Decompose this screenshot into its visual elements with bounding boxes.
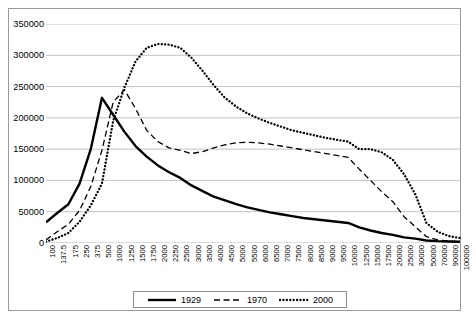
x-axis-tick-label: 250 <box>83 245 91 258</box>
x-axis-tick-label: 3000 <box>195 245 203 262</box>
x-axis-tick-label: 5500 <box>251 245 259 262</box>
x-axis-tick-label: 17500 <box>385 245 393 266</box>
x-axis-tick-label: 1500 <box>139 245 147 262</box>
legend-entry-2000: 2000 <box>279 295 333 305</box>
x-axis-tick-label: 4500 <box>228 245 236 262</box>
y-axis-tick-label: 150000 <box>0 145 44 154</box>
x-axis-tick-label: 9000 <box>329 245 337 262</box>
x-axis-tick-label: 100000 <box>463 245 471 270</box>
plot-svg <box>46 24 461 243</box>
x-axis-tick-label: 100 <box>49 245 57 258</box>
x-axis-tick-label: 500 <box>105 245 113 258</box>
x-axis-tick-label: 1000 <box>116 245 124 262</box>
x-axis-tick-label: 2000 <box>161 245 169 262</box>
legend-entry-1970: 1970 <box>213 295 267 305</box>
x-axis-tick-label: 9500 <box>340 245 348 262</box>
x-axis-tick-label: 7000 <box>284 245 292 262</box>
x-axis-tick-label: 6000 <box>262 245 270 262</box>
x-axis-tick-label: 20000 <box>396 245 404 266</box>
x-axis-tick-label: 30000 <box>418 245 426 266</box>
x-axis-tick-label: 1750 <box>150 245 158 262</box>
chart-container: 0500001000001500002000002500003000003500… <box>0 0 476 319</box>
y-axis-tick-label: 200000 <box>0 113 44 122</box>
x-axis-tick-label: 2500 <box>183 245 191 262</box>
x-axis-tick-label: 1250 <box>128 245 136 262</box>
x-axis-tick-label: 175 <box>72 245 80 258</box>
legend-label: 1970 <box>247 295 267 305</box>
x-axis-tick-label: 5000 <box>239 245 247 262</box>
x-axis-tick-label: 25000 <box>407 245 415 266</box>
x-axis-tick-label: 2250 <box>172 245 180 262</box>
x-axis-tick-label: 12500 <box>363 245 371 266</box>
y-axis-tick-label: 0 <box>0 239 44 248</box>
y-axis-tick-label: 350000 <box>0 20 44 29</box>
x-axis-tick-label: 7500 <box>295 245 303 262</box>
plot-area <box>46 24 461 243</box>
y-axis: 0500001000001500002000002500003000003500… <box>0 24 44 243</box>
legend-swatch-1929 <box>147 295 177 305</box>
legend-label: 1929 <box>181 295 201 305</box>
y-axis-tick-label: 250000 <box>0 82 44 91</box>
series-line-1929 <box>46 98 460 242</box>
x-axis-tick-label: 10000 <box>351 245 359 266</box>
x-axis-tick-label: 4000 <box>217 245 225 262</box>
y-axis-tick-label: 50000 <box>0 207 44 216</box>
x-axis-tick-label: 50000 <box>430 245 438 266</box>
x-axis-tick-label: 90000 <box>452 245 460 266</box>
x-axis-tick-label: 3500 <box>206 245 214 262</box>
x-axis-tick-label: 15000 <box>374 245 382 266</box>
legend-label: 2000 <box>313 295 333 305</box>
x-axis-tick-label: 8000 <box>307 245 315 262</box>
x-axis-tick-label: 375 <box>94 245 102 258</box>
x-axis: 100137.517525037550010001250150017502000… <box>46 245 461 285</box>
y-axis-tick-label: 100000 <box>0 176 44 185</box>
x-axis-tick-label: 137.5 <box>60 245 68 264</box>
legend-swatch-1970 <box>213 295 243 305</box>
x-axis-tick-label: 8500 <box>318 245 326 262</box>
legend-entry-1929: 1929 <box>147 295 201 305</box>
chart-legend: 192919702000 <box>133 291 347 308</box>
x-axis-tick-label: 6500 <box>273 245 281 262</box>
x-axis-tick-label: 70000 <box>441 245 449 266</box>
legend-swatch-2000 <box>279 295 309 305</box>
y-axis-tick-label: 300000 <box>0 51 44 60</box>
